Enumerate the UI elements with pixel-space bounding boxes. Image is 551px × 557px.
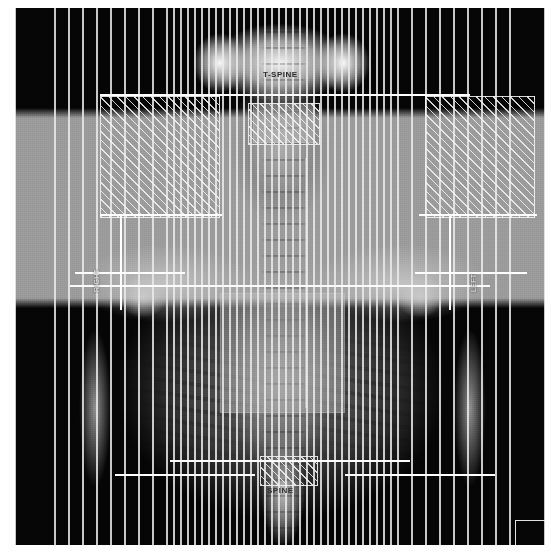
corner-marker-box[interactable] <box>515 520 545 545</box>
crosshair-horizontal <box>70 285 490 287</box>
bottom-structure-label: SPINE <box>267 486 294 495</box>
drr-image[interactable]: T-SPINE SPINE RIGHT LEFT <box>15 8 545 545</box>
right-orientation-label: LEFT <box>470 274 477 292</box>
left-orientation-label: RIGHT <box>93 269 100 292</box>
crosshair-vertical <box>305 158 307 408</box>
bev-viewport: T-SPINE SPINE RIGHT LEFT <box>0 0 551 557</box>
top-structure-label: T-SPINE <box>263 70 298 79</box>
